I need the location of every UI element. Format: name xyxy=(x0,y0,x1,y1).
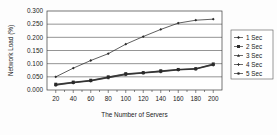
x-tick-label: 200 xyxy=(208,95,219,102)
x-axis-tick-marks xyxy=(56,90,214,93)
x-tick-label: 80 xyxy=(105,95,113,102)
y-axis-label: Network Load (%) xyxy=(7,25,15,76)
legend-label: 2 Sec xyxy=(246,43,262,50)
data-point-star xyxy=(237,72,240,75)
x-tick-label: 40 xyxy=(70,95,78,102)
y-axis-tick-labels: 0.0000.0500.1000.1500.2000.2500.300 xyxy=(27,7,43,93)
y-tick-label: 0.300 xyxy=(27,7,43,14)
x-tick-label: 160 xyxy=(173,95,184,102)
legend-label: 1 Sec xyxy=(246,34,262,41)
y-tick-label: 0.150 xyxy=(27,47,43,54)
y-tick-label: 0.200 xyxy=(27,34,43,41)
x-axis-label: The Number of Servers xyxy=(101,111,167,118)
x-tick-label: 60 xyxy=(87,95,95,102)
chart-figure: 0.0000.0500.1000.1500.2000.2500.300 2040… xyxy=(0,0,277,135)
x-tick-label: 180 xyxy=(190,95,201,102)
legend-label: 5 Sec xyxy=(246,70,262,77)
y-tick-label: 0.050 xyxy=(27,73,43,80)
y-tick-label: 0.100 xyxy=(27,60,43,67)
y-tick-label: 0.000 xyxy=(27,86,43,93)
network-load-line-chart: 0.0000.0500.1000.1500.2000.2500.300 2040… xyxy=(0,0,277,135)
x-tick-label: 100 xyxy=(120,95,131,102)
data-point-star xyxy=(212,63,215,66)
legend-label: 4 Sec xyxy=(246,61,262,68)
x-tick-label: 20 xyxy=(52,95,60,102)
legend[interactable]: 1 Sec2 Sec3 Sec4 Sec5 Sec xyxy=(231,30,273,79)
legend-label: 3 Sec xyxy=(246,52,262,59)
x-tick-label: 120 xyxy=(138,95,149,102)
y-tick-label: 0.250 xyxy=(27,20,43,27)
data-point-square xyxy=(237,45,240,48)
data-point-star xyxy=(72,81,75,84)
x-tick-label: 140 xyxy=(155,95,166,102)
x-axis-tick-labels: 20406080100120140160180200 xyxy=(52,95,219,102)
